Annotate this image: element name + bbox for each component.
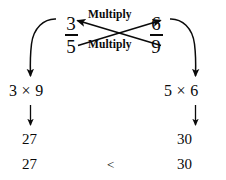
fraction-right-denominator: 9 <box>143 37 169 56</box>
fraction-left-denominator: 5 <box>58 37 84 56</box>
cross-multiplication-diagram: 3 5 6 9 Multiply Multiply 3 × 9 5 × 6 27… <box>0 0 226 180</box>
fraction-left: 3 5 <box>58 14 84 56</box>
product-value-right: 30 <box>177 132 192 147</box>
curve-arrow-left <box>30 19 56 76</box>
product-expression-right: 5 × 6 <box>164 83 199 99</box>
fraction-left-numerator: 3 <box>58 14 84 33</box>
conclusion-value-right: 30 <box>177 157 192 172</box>
product-value-left: 27 <box>22 132 37 147</box>
fraction-right: 6 9 <box>143 14 169 56</box>
multiply-label-top: Multiply <box>88 9 132 21</box>
multiply-label-bottom: Multiply <box>88 39 132 51</box>
fraction-right-numerator: 6 <box>143 14 169 33</box>
conclusion-value-left: 27 <box>22 157 37 172</box>
product-expression-left: 3 × 9 <box>9 83 44 99</box>
comparison-operator: < <box>107 158 114 171</box>
curve-arrow-right <box>170 19 196 76</box>
